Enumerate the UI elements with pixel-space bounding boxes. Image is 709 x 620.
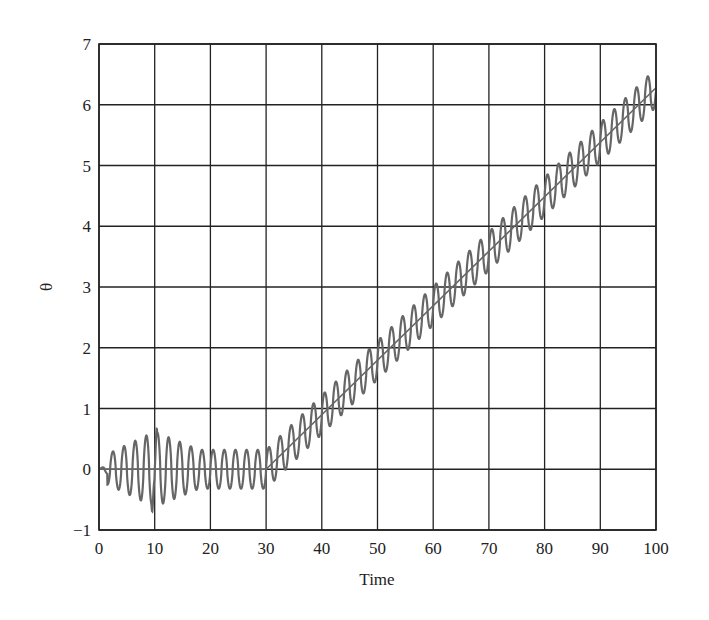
x-tick-label: 20 [202,539,219,558]
y-tick-label: 7 [83,35,92,54]
x-tick-label: 10 [146,539,163,558]
x-tick-labels: 0102030405060708090100 [95,539,669,558]
x-tick-label: 100 [643,539,669,558]
x-tick-label: 80 [536,539,553,558]
x-tick-label: 90 [592,539,609,558]
y-tick-labels: −101234567 [73,35,92,540]
chart: 0102030405060708090100 −101234567 Time θ [0,0,709,620]
y-tick-label: 5 [83,157,92,176]
x-tick-label: 30 [258,539,275,558]
y-tick-label: 0 [83,460,92,479]
y-tick-label: 6 [83,96,92,115]
y-tick-label: 1 [83,400,92,419]
x-tick-label: 40 [313,539,330,558]
x-tick-label: 0 [95,539,104,558]
y-tick-label: 3 [83,278,92,297]
y-tick-label: 4 [83,217,92,236]
y-tick-label: 2 [83,339,92,358]
x-tick-label: 50 [369,539,386,558]
x-tick-label: 60 [425,539,442,558]
y-tick-label: −1 [73,521,91,540]
y-axis-label: θ [37,283,56,291]
x-axis-label: Time [359,570,394,589]
x-tick-label: 70 [480,539,497,558]
